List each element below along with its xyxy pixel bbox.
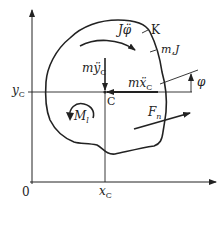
force-x-sub: C [146, 83, 152, 92]
force-n-arrow [134, 113, 190, 129]
label-axis-y-tick: yC [12, 84, 25, 96]
force-x-text: mẍ [128, 76, 146, 90]
angle-reference-line [160, 70, 198, 84]
axis-x-tick-text: x [99, 184, 106, 198]
mass-inertia-text: m,J [161, 43, 179, 56]
origin-text: 0 [22, 185, 30, 199]
load-moment-arrowhead [66, 112, 74, 121]
center-text: C [107, 95, 115, 108]
angle-text: φ [197, 75, 205, 89]
label-inertia-moment: Jφ̈ [118, 24, 131, 36]
force-y-text: mÿ [82, 61, 100, 75]
center-point [103, 90, 106, 93]
label-inertia-force-x: mẍC [128, 77, 152, 89]
axis-y-tick-text: y [12, 83, 19, 97]
label-force-n: Fn [148, 106, 161, 118]
axis-x-tick-sub: C [106, 191, 112, 200]
label-load-moment: Ml [74, 110, 89, 122]
k-marker [142, 30, 148, 33]
load-moment-text: M [74, 109, 86, 123]
label-body-k: K [151, 24, 160, 36]
body-name-text: K [151, 23, 160, 37]
inertia-moment-var: φ̈ [123, 23, 131, 37]
label-axis-x-tick: xC [99, 185, 112, 197]
axis-y-tick-sub: C [19, 90, 25, 99]
mj-marker [150, 50, 156, 52]
label-mass-inertia: m,J [161, 44, 179, 55]
force-n-sub: n [156, 112, 161, 121]
label-angle: φ [197, 76, 205, 88]
label-origin: 0 [22, 186, 30, 198]
label-center: C [107, 96, 115, 107]
force-y-sub: C [100, 68, 106, 77]
label-inertia-force-y: mÿC [82, 62, 106, 74]
load-moment-sub: l [86, 116, 89, 125]
inertia-moment-arrow [80, 40, 135, 50]
